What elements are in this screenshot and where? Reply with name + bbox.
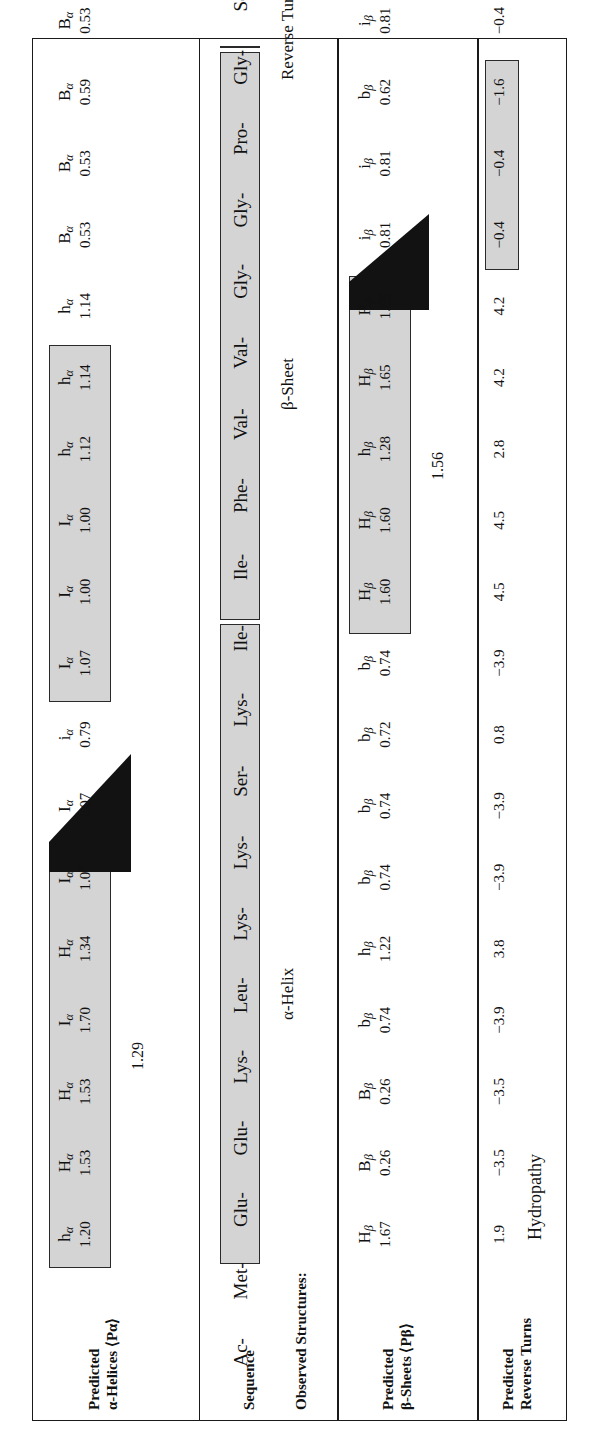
turns-label-line1: Predicted: [499, 1318, 517, 1410]
residue-prediction-cell: iβ0.81: [355, 199, 394, 270]
struct-label-beta-sheet: β-Sheet: [278, 358, 298, 410]
hydropathy-value: 4.5: [491, 556, 508, 627]
prediction-value: 1.07: [77, 627, 94, 698]
hydropathy-cell: −1.6: [491, 56, 508, 127]
residue-prediction-cell: bβ0.74: [355, 770, 394, 841]
hydropathy-value: −3.5: [491, 1127, 508, 1198]
residue-prediction-cell: hα1.14: [55, 342, 94, 413]
prediction-code: iβ: [355, 128, 377, 199]
hydropathy-cell: 1.9: [491, 1199, 508, 1270]
alpha-label-line1: Predicted: [85, 1318, 103, 1410]
prediction-code: Hβ: [355, 342, 377, 413]
residue-prediction-cell: Hβ1.60: [355, 485, 394, 556]
hydropathy-value: 4.2: [491, 342, 508, 413]
alpha-value-row: hα1.20Hα1.53Hα1.53Iα1.70Hα1.34Iα1.07Iα1.…: [55, 55, 94, 1270]
prediction-code: Hα: [55, 913, 77, 984]
prediction-value: 0.74: [377, 627, 394, 698]
prediction-value: 1.20: [77, 1199, 94, 1270]
sequence-residue: Lys-: [230, 1031, 252, 1102]
prediction-code: Bα: [55, 56, 77, 127]
hydropathy-cell: 2.8: [491, 413, 508, 484]
sequence-residue: Glu-: [230, 1102, 252, 1173]
residue-prediction-cell: bβ0.72: [355, 699, 394, 770]
hydropathy-cell: −0.4: [491, 128, 508, 199]
prediction-code: Iα: [55, 842, 77, 913]
hydropathy-cell: 4.2: [491, 271, 508, 342]
residue-prediction-cell: Bα0.53: [55, 128, 94, 199]
residue-prediction-cell: Bα0.53: [55, 0, 94, 56]
residue-prediction-cell: Bβ0.26: [355, 1127, 394, 1198]
prediction-value: 1.65: [377, 271, 394, 342]
prediction-value: 0.26: [377, 1127, 394, 1198]
prediction-code: hα: [55, 413, 77, 484]
prediction-value: 1.60: [377, 556, 394, 627]
prediction-value: 1.12: [77, 413, 94, 484]
hydropathy-value: −3.5: [491, 1056, 508, 1127]
rotated-figure-stage: Predicted α-Helices ⟨Pα⟩ hα1.20Hα1.53Hα1…: [0, 0, 599, 1449]
sequence-residue: Gly-: [230, 32, 252, 103]
residue-prediction-cell: Hα1.34: [55, 913, 94, 984]
hydropathy-value: −3.9: [491, 842, 508, 913]
prediction-code: Hα: [55, 1127, 77, 1198]
residue-prediction-cell: bβ0.74: [355, 627, 394, 698]
turns-track: 1.9−3.5−3.5−3.93.8−3.9−3.90.8−3.94.54.52…: [479, 55, 568, 1270]
prediction-code: Hβ: [355, 485, 377, 556]
residue-prediction-cell: Bα0.53: [55, 199, 94, 270]
panel-predicted-reverse-turns: Predicted Reverse Turns 1.9−3.5−3.5−3.93…: [477, 39, 568, 1420]
prediction-code: hα: [55, 342, 77, 413]
observed-structures-label: Observed Structures:: [292, 1272, 310, 1410]
prediction-code: Iα: [55, 485, 77, 556]
residue-prediction-cell: Hα1.53: [55, 1127, 94, 1198]
turns-label-line2: Reverse Turns: [517, 1318, 535, 1410]
prediction-code: Bα: [55, 199, 77, 270]
sequence-residue: Pro-: [230, 103, 252, 174]
prediction-code: Bα: [55, 128, 77, 199]
sequence-residue: Ser-: [230, 745, 252, 816]
prediction-value: 0.79: [77, 699, 94, 770]
hydropathy-value: −0.4: [491, 199, 508, 270]
hydropathy-cell: −3.5: [491, 1127, 508, 1198]
residue-prediction-cell: iβ0.81: [355, 0, 394, 56]
prediction-value: 0.74: [377, 842, 394, 913]
beta-panel-label: Predicted β-Sheets ⟨Pβ⟩: [379, 1323, 416, 1410]
prediction-value: 0.62: [377, 56, 394, 127]
hydropathy-cell: −3.9: [491, 984, 508, 1055]
beta-track: Hβ1.67Bβ0.26Bβ0.26bβ0.74hβ1.22bβ0.74bβ0.…: [339, 55, 477, 1270]
residue-prediction-cell: hα1.14: [55, 271, 94, 342]
hydropathy-cell: −0.4: [491, 0, 508, 56]
prediction-value: 1.34: [77, 913, 94, 984]
prediction-code: Bβ: [355, 1127, 377, 1198]
sequence-prefix: Ac-: [230, 1317, 252, 1388]
prediction-value: 1.53: [77, 1127, 94, 1198]
prediction-code: iβ: [355, 199, 377, 270]
prediction-code: bβ: [355, 984, 377, 1055]
prediction-code: Hα: [55, 1056, 77, 1127]
prediction-value: 0.72: [377, 699, 394, 770]
prediction-value: 0.26: [377, 1056, 394, 1127]
prediction-value: 1.14: [77, 342, 94, 413]
prediction-value: 1.14: [77, 271, 94, 342]
residue-prediction-cell: iα0.79: [55, 699, 94, 770]
prediction-value: 1.07: [77, 842, 94, 913]
struct-label-reverse-turns: Reverse Turns: [278, 0, 298, 80]
alpha-average-value: 1.29: [129, 1042, 147, 1070]
residue-prediction-cell: Hβ1.67: [355, 1199, 394, 1270]
residue-prediction-cell: hβ1.28: [355, 413, 394, 484]
residue-prediction-cell: bβ0.74: [355, 842, 394, 913]
prediction-code: Hβ: [355, 556, 377, 627]
hydropathy-value: 0.8: [491, 699, 508, 770]
hydropathy-value: −3.9: [491, 984, 508, 1055]
prediction-code: hα: [55, 1199, 77, 1270]
sequence-residue: Lys-: [230, 817, 252, 888]
residue-prediction-cell: Bα0.59: [55, 56, 94, 127]
beta-label-line2: β-Sheets ⟨Pβ⟩: [397, 1323, 415, 1410]
alpha-panel-label: Predicted α-Helices ⟨Pα⟩: [85, 1318, 122, 1410]
prediction-code: Bβ: [355, 1056, 377, 1127]
residue-prediction-cell: Iα1.00: [55, 485, 94, 556]
prediction-code: bβ: [355, 699, 377, 770]
panel-predicted-alpha-helices: Predicted α-Helices ⟨Pα⟩ hα1.20Hα1.53Hα1…: [33, 39, 199, 1420]
prediction-code: Hβ: [355, 1199, 377, 1270]
sequence-residue: Gly-: [230, 246, 252, 317]
residue-prediction-cell: Iα1.70: [55, 984, 94, 1055]
hydropathy-cell: −0.4: [491, 199, 508, 270]
